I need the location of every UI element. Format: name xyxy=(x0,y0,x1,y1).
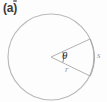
upper-radius-line xyxy=(51,39,90,57)
arc-length-label-s: s xyxy=(97,51,101,60)
panel-label: (a) xyxy=(3,1,17,15)
lower-radius-line xyxy=(51,57,90,76)
figure-panel-a: (a) θ r s xyxy=(0,0,107,102)
circle-angle-diagram xyxy=(0,0,107,102)
angle-label-theta: θ xyxy=(62,50,67,61)
radius-label-r: r xyxy=(65,65,69,74)
